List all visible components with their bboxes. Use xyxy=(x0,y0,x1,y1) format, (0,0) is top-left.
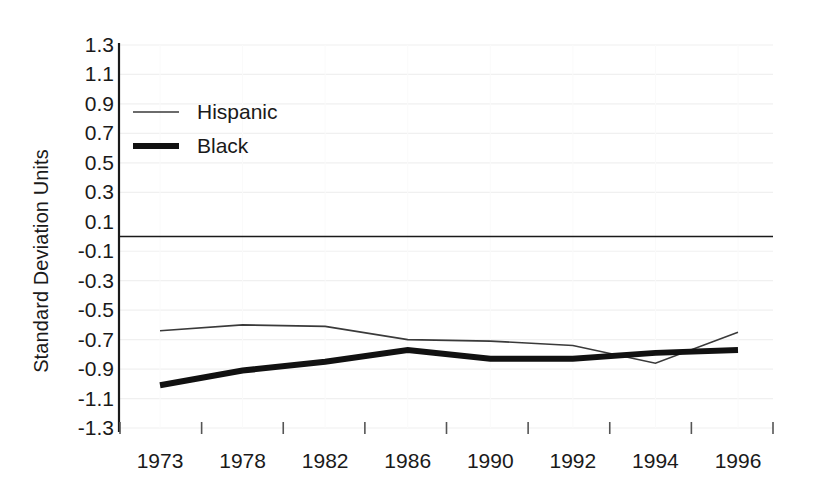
legend-label-hispanic: Hispanic xyxy=(197,101,278,122)
plot-area xyxy=(0,0,823,503)
chart-container: Standard Deviation Units 1.31.10.90.70.5… xyxy=(0,0,823,503)
series-line-hispanic xyxy=(160,325,738,363)
legend-label-black: Black xyxy=(197,135,248,156)
series-line-black xyxy=(160,350,738,385)
